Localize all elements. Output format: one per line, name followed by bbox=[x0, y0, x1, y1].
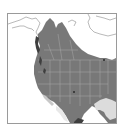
range-map bbox=[7, 13, 117, 124]
range-map-svg bbox=[8, 14, 116, 123]
